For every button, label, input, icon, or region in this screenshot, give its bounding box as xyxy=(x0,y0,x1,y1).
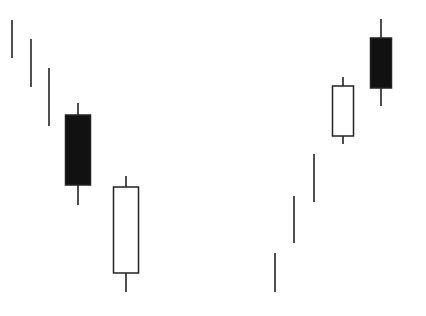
candlestick-chart xyxy=(0,0,426,316)
bullish-candle-body xyxy=(333,86,354,136)
right-group xyxy=(275,19,392,292)
bearish-candle-body xyxy=(371,38,392,88)
left-group xyxy=(12,20,139,292)
bearish-candle-body xyxy=(66,115,91,185)
bullish-candle-body xyxy=(114,187,139,273)
